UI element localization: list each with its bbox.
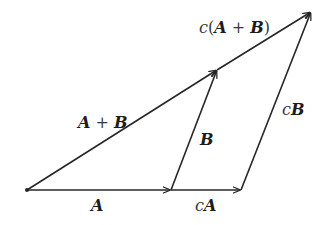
label-capb-close: ) xyxy=(264,18,270,37)
label-capb-scalar: c xyxy=(199,18,208,37)
label-c-a-plus-b: c(A + B) xyxy=(199,18,270,37)
label-apb-op: + xyxy=(90,113,114,132)
label-capb-op: + xyxy=(227,18,251,37)
label-ca-scalar: c xyxy=(195,196,204,215)
label-a: A xyxy=(89,196,103,215)
vector-diagram: A cA B cB A + B c(A + B) xyxy=(0,0,333,225)
label-capb-vec2: B xyxy=(249,18,264,37)
label-ca: cA xyxy=(195,196,216,215)
label-cb: cB xyxy=(282,100,305,119)
label-apb-vec1: A xyxy=(76,113,90,132)
label-ca-vec: A xyxy=(202,196,216,215)
label-cb-scalar: c xyxy=(282,100,291,119)
label-apb-vec2: B xyxy=(113,113,128,132)
label-a-vec: A xyxy=(89,196,103,215)
label-a-plus-b: A + B xyxy=(76,113,128,132)
label-cb-vec: B xyxy=(290,100,305,119)
label-b: B xyxy=(199,130,214,149)
label-capb-vec1: A xyxy=(212,18,226,37)
label-b-vec: B xyxy=(199,130,214,149)
